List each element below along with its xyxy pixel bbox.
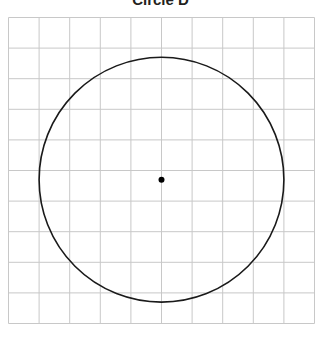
grid-lines (9, 18, 315, 324)
grid-diagram (0, 0, 321, 356)
center-point (159, 177, 165, 183)
